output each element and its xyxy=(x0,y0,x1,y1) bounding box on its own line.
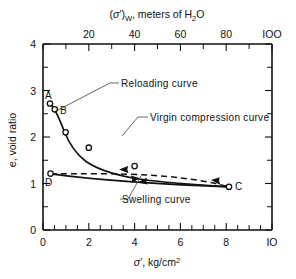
bottom-axis-ticks xyxy=(43,223,272,230)
y-axis-title-text: e, void ratio xyxy=(6,113,18,167)
x-title-exp: 2 xyxy=(176,256,180,265)
data-point xyxy=(132,163,137,168)
point-label-B: B xyxy=(60,105,67,116)
right-axis-ticks xyxy=(265,44,272,230)
y-axis-title: e, void ratio xyxy=(6,113,18,167)
y-tick-label-3: 3 xyxy=(30,85,36,97)
x-tick-label-0: 0 xyxy=(40,236,46,248)
point-label-D: D xyxy=(45,177,52,188)
point-label-A: A xyxy=(45,90,52,101)
y-tick-label-4: 4 xyxy=(30,38,36,50)
x-tick-label-10: IO xyxy=(266,236,277,248)
y-tick-label-1: 1 xyxy=(30,178,36,190)
data-point-C xyxy=(226,184,231,189)
top-tick-label-100: IOO xyxy=(262,28,281,40)
x-tick-label-8: 8 xyxy=(223,236,229,248)
y-tick-label-0: 0 xyxy=(30,224,36,236)
x-tick-label-2: 2 xyxy=(86,236,92,248)
svg-text:σ′, kg/cm2: σ′, kg/cm2 xyxy=(134,256,180,269)
chart-canvas: A B C D Reloading curve Virgin compressi… xyxy=(0,0,296,279)
x-title-rest: , kg/cm xyxy=(142,256,176,268)
compression-curve-figure: A B C D Reloading curve Virgin compressi… xyxy=(0,0,296,279)
top-axis-title: (σ′)W, meters of H2O xyxy=(110,8,205,23)
top-title-rest: , meters of H xyxy=(132,8,192,20)
top-tick-label-60: 60 xyxy=(175,28,187,40)
x-tick-label-4: 4 xyxy=(132,236,138,248)
x-axis-title: σ′, kg/cm2 xyxy=(134,256,180,269)
annotation-swelling: Swelling curve xyxy=(122,194,191,205)
annotation-virgin: Virgin compression curve xyxy=(150,112,269,123)
top-axis-ticks xyxy=(43,44,272,51)
point-label-C: C xyxy=(235,181,242,192)
top-title-tail: O xyxy=(196,8,204,20)
annotation-reloading: Reloading curve xyxy=(121,78,198,89)
y-tick-label-2: 2 xyxy=(30,131,36,143)
top-tick-label-80: 80 xyxy=(220,28,232,40)
x-tick-label-6: 6 xyxy=(177,236,183,248)
data-point xyxy=(86,145,91,150)
data-point xyxy=(63,130,68,135)
left-axis-ticks xyxy=(43,44,50,230)
top-tick-label-20: 20 xyxy=(83,28,95,40)
data-point-B xyxy=(52,107,57,112)
data-point-D xyxy=(48,171,53,176)
top-tick-label-40: 40 xyxy=(129,28,141,40)
data-point-A xyxy=(47,101,52,106)
svg-text:(σ′)W, meters of H2O: (σ′)W, meters of H2O xyxy=(110,8,205,23)
